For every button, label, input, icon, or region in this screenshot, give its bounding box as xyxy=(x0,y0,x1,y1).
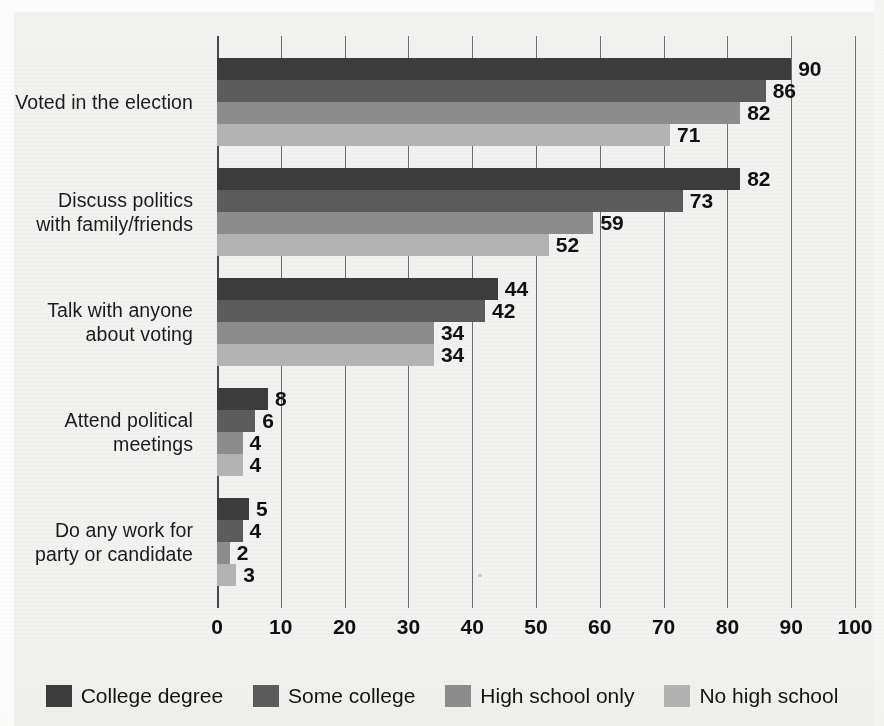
x-tick-label-70: 70 xyxy=(652,612,675,642)
bar-chart: Voted in the electionDiscuss politicswit… xyxy=(0,0,884,726)
category-label: Voted in the election xyxy=(0,90,193,114)
bar-value-label: 4 xyxy=(250,432,262,454)
legend-entry[interactable]: No high school xyxy=(664,684,838,708)
bar xyxy=(217,454,243,476)
bar xyxy=(217,58,791,80)
category-label: Talk with anyoneabout voting xyxy=(0,298,193,346)
category-label-line: Discuss politics xyxy=(0,188,193,212)
legend-entry[interactable]: College degree xyxy=(46,684,223,708)
bar-value-label: 73 xyxy=(690,190,713,212)
category-axis-labels: Voted in the electionDiscuss politicswit… xyxy=(0,36,205,608)
bar-value-label: 34 xyxy=(441,322,464,344)
legend-label: College degree xyxy=(81,684,223,708)
bar xyxy=(217,278,498,300)
bar xyxy=(217,388,268,410)
x-tick-label-80: 80 xyxy=(716,612,739,642)
legend-swatch-icon xyxy=(664,685,690,707)
plot-area: 90868271827359524442343486445423 xyxy=(217,36,855,608)
x-axis-tick-labels: 0102030405060708090100 xyxy=(0,612,884,644)
bar-value-label: 82 xyxy=(747,168,770,190)
category-label-line: with family/friends xyxy=(0,212,193,236)
x-tick-label-40: 40 xyxy=(461,612,484,642)
bar-value-label: 82 xyxy=(747,102,770,124)
bar-value-label: 52 xyxy=(556,234,579,256)
x-tick-label-20: 20 xyxy=(333,612,356,642)
bar xyxy=(217,520,243,542)
x-tick-label-100: 100 xyxy=(837,612,872,642)
bar-value-label: 34 xyxy=(441,344,464,366)
bar-value-label: 90 xyxy=(798,58,821,80)
bar xyxy=(217,322,434,344)
bar-value-label: 42 xyxy=(492,300,515,322)
x-tick-label-0: 0 xyxy=(211,612,223,642)
category-label: Do any work forparty or candidate xyxy=(0,518,193,566)
category-label: Discuss politicswith family/friends xyxy=(0,188,193,236)
legend-swatch-icon xyxy=(46,685,72,707)
x-tick-label-60: 60 xyxy=(588,612,611,642)
category-label-line: Attend political xyxy=(0,408,193,432)
category-label-line: meetings xyxy=(0,432,193,456)
scan-artifact-speck xyxy=(478,574,482,577)
bar-value-label: 3 xyxy=(243,564,255,586)
bar-value-label: 59 xyxy=(600,212,623,234)
bar-value-label: 8 xyxy=(275,388,287,410)
bar-value-label: 6 xyxy=(262,410,274,432)
bar xyxy=(217,102,740,124)
bar-value-label: 5 xyxy=(256,498,268,520)
page-top-margin xyxy=(0,0,884,12)
bar xyxy=(217,344,434,366)
bar-value-label: 2 xyxy=(237,542,249,564)
chart-legend: College degreeSome collegeHigh school on… xyxy=(0,676,884,716)
bar xyxy=(217,300,485,322)
legend-label: High school only xyxy=(480,684,634,708)
x-tick-label-50: 50 xyxy=(524,612,547,642)
bar xyxy=(217,80,766,102)
bar-value-label: 71 xyxy=(677,124,700,146)
bar xyxy=(217,124,670,146)
bar-value-label: 86 xyxy=(773,80,796,102)
legend-entry[interactable]: High school only xyxy=(445,684,634,708)
bar xyxy=(217,432,243,454)
legend-label: No high school xyxy=(699,684,838,708)
legend-swatch-icon xyxy=(445,685,471,707)
legend-entry[interactable]: Some college xyxy=(253,684,415,708)
bar xyxy=(217,190,683,212)
bar-value-label: 44 xyxy=(505,278,528,300)
gridline-100 xyxy=(855,36,856,608)
category-label: Attend politicalmeetings xyxy=(0,408,193,456)
bar-value-label: 4 xyxy=(250,520,262,542)
bar xyxy=(217,234,549,256)
bar-value-label: 4 xyxy=(250,454,262,476)
legend-swatch-icon xyxy=(253,685,279,707)
bar xyxy=(217,168,740,190)
bar xyxy=(217,212,593,234)
category-label-line: about voting xyxy=(0,322,193,346)
category-label-line: party or candidate xyxy=(0,542,193,566)
category-label-line: Voted in the election xyxy=(0,90,193,114)
legend-label: Some college xyxy=(288,684,415,708)
x-tick-label-30: 30 xyxy=(397,612,420,642)
bar xyxy=(217,564,236,586)
category-label-line: Talk with anyone xyxy=(0,298,193,322)
x-tick-label-10: 10 xyxy=(269,612,292,642)
bar xyxy=(217,542,230,564)
bar xyxy=(217,410,255,432)
x-tick-label-90: 90 xyxy=(780,612,803,642)
category-label-line: Do any work for xyxy=(0,518,193,542)
bar xyxy=(217,498,249,520)
gridline-90 xyxy=(791,36,792,608)
